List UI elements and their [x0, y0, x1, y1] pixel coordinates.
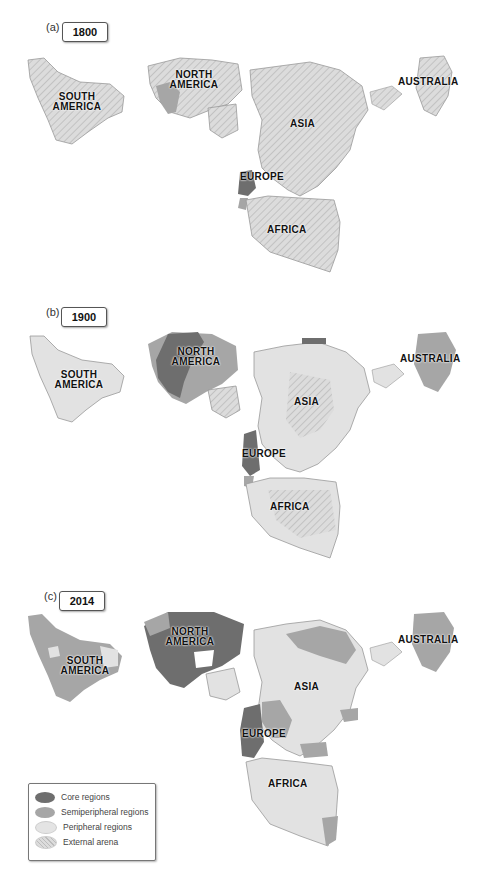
- world-map-1900: [0, 280, 488, 570]
- legend-label: Semiperipheral regions: [61, 807, 148, 817]
- label-europe: EUROPE: [242, 729, 286, 739]
- label-australia: AUSTRALIA: [398, 77, 458, 87]
- peripheral-swatch-icon: [35, 821, 57, 834]
- label-europe: EUROPE: [240, 172, 284, 182]
- label-africa: AFRICA: [268, 779, 308, 789]
- map-legend: Core regions Semiperipheral regions Peri…: [28, 783, 156, 861]
- external-swatch-icon: [35, 836, 57, 849]
- legend-item-external: External arena: [35, 835, 118, 849]
- label-africa: AFRICA: [270, 502, 310, 512]
- label-asia: ASIA: [294, 682, 319, 692]
- label-australia: AUSTRALIA: [398, 635, 458, 645]
- core-swatch-icon: [35, 792, 55, 803]
- label-north-america: NORTH AMERICA: [162, 627, 218, 647]
- map-panel-1900: (b) 1900 SOUTH AMERICA NORTH AMERICA ASI…: [0, 280, 488, 570]
- label-asia: ASIA: [290, 119, 315, 129]
- label-south-america: SOUTH AMERICA: [54, 370, 104, 390]
- legend-item-core: Core regions: [35, 790, 110, 804]
- label-south-america: SOUTH AMERICA: [52, 92, 102, 112]
- map-panel-1800: (a) 1800 SOUTH AMERICA NORTH AMERICA ASI…: [0, 0, 488, 280]
- legend-item-semiperipheral: Semiperipheral regions: [35, 805, 148, 819]
- legend-label: Core regions: [61, 792, 110, 802]
- label-australia: AUSTRALIA: [400, 354, 460, 364]
- semiperipheral-swatch-icon: [35, 807, 55, 818]
- legend-item-peripheral: Peripheral regions: [35, 820, 132, 834]
- legend-label: Peripheral regions: [63, 822, 132, 832]
- label-north-america: NORTH AMERICA: [166, 70, 222, 90]
- label-africa: AFRICA: [267, 225, 307, 235]
- label-asia: ASIA: [294, 397, 319, 407]
- world-map-1800: [0, 0, 488, 280]
- label-europe: EUROPE: [242, 449, 286, 459]
- legend-label: External arena: [63, 837, 118, 847]
- label-north-america: NORTH AMERICA: [168, 347, 224, 367]
- label-south-america: SOUTH AMERICA: [60, 656, 110, 676]
